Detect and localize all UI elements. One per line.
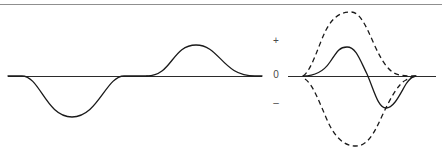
- figure-canvas: + 0 –: [0, 0, 442, 154]
- right-dashed-lower-envelope-curve: [305, 76, 416, 146]
- waveform-diagram-svg: [0, 0, 442, 154]
- axis-label-negative: –: [269, 98, 283, 108]
- right-dashed-upper-envelope-curve: [303, 12, 416, 76]
- axis-label-positive: +: [269, 36, 283, 46]
- axis-label-zero: 0: [269, 70, 283, 80]
- left-negative-lobe-curve: [8, 76, 147, 117]
- right-solid-derivative-curve: [303, 47, 416, 108]
- left-positive-lobe-curve: [147, 45, 262, 76]
